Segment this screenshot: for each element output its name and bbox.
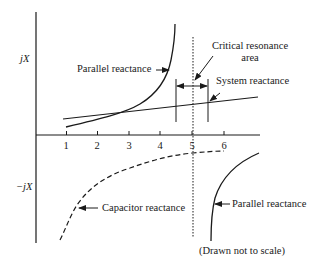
x-tick-label-1: 1 (63, 141, 68, 152)
system-reactance-line (63, 97, 258, 119)
capacitor-reactance-label: Capacitor reactance (102, 203, 185, 214)
harmonic-resonance-diagram: jX −jX 1 2 3 4 5 6 Parallel reactance Cr… (0, 0, 324, 265)
not-to-scale-note: (Drawn not to scale) (199, 246, 285, 257)
x-tick-label-4: 4 (157, 141, 162, 152)
parallel-reactance-lower-label: Parallel reactance (232, 199, 306, 210)
x-tick-label-5: 5 (189, 141, 194, 152)
parallel-reactance-upper-label: Parallel reactance (77, 64, 151, 75)
x-tick-label-2: 2 (94, 141, 99, 152)
capacitor-reactance-curve (60, 151, 224, 240)
y-positive-label: jX (20, 54, 29, 65)
system-reactance-pointer (210, 93, 220, 101)
critical-resonance-line2: area (200, 53, 300, 64)
system-reactance-label: System reactance (216, 76, 289, 87)
critical-resonance-label: Critical resonance area (200, 41, 300, 63)
critical-resonance-line1: Critical resonance (200, 41, 300, 52)
parallel-reactance-lower-curve (211, 153, 259, 241)
parallel-reactance-upper-curve (66, 24, 175, 127)
x-tick-label-6: 6 (221, 141, 226, 152)
y-negative-label: −jX (16, 182, 32, 193)
x-tick-label-3: 3 (126, 141, 131, 152)
